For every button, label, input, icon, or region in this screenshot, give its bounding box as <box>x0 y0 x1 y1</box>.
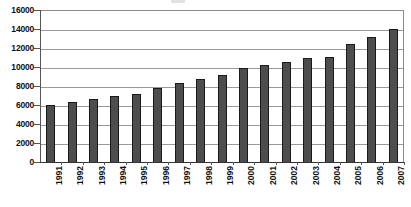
x-tick-label: 2007 <box>397 166 406 185</box>
bar <box>346 44 355 162</box>
y-tick-mark <box>34 67 40 68</box>
y-tick-mark <box>34 10 40 11</box>
x-tick-label: 2002 <box>290 166 299 185</box>
y-tick-mark <box>34 143 40 144</box>
y-tick-label: 10000 <box>11 63 34 72</box>
x-tick-mark <box>168 162 169 165</box>
x-tick-label: 1993 <box>98 166 107 185</box>
x-tick-label: 2006 <box>376 166 385 185</box>
x-tick-mark <box>383 162 384 165</box>
y-tick-mark <box>34 86 40 87</box>
x-tick-mark <box>340 162 341 165</box>
x-tick-mark <box>126 162 127 165</box>
x-tick-label: 1991 <box>55 166 64 185</box>
bar <box>239 68 248 162</box>
x-tick-label: 2005 <box>354 166 363 185</box>
y-tick-mark <box>34 124 40 125</box>
x-tick-mark <box>83 162 84 165</box>
bars-layer <box>40 10 404 162</box>
y-tick-label: 14000 <box>11 25 34 34</box>
x-tick-mark <box>254 162 255 165</box>
y-tick-label: 16000 <box>11 6 34 15</box>
x-tick-mark <box>297 162 298 165</box>
bar <box>196 79 205 162</box>
y-tick-mark <box>34 48 40 49</box>
y-tick-mark <box>34 105 40 106</box>
x-tick-mark <box>61 162 62 165</box>
x-tick-mark <box>211 162 212 165</box>
x-tick-label: 2004 <box>333 166 342 185</box>
bar <box>325 57 334 162</box>
y-tick-label: 2000 <box>16 139 34 148</box>
x-tick-label: 1992 <box>76 166 85 185</box>
bar <box>389 29 398 162</box>
bar <box>46 105 55 162</box>
bar-chart: 0200040006000800010000120001400016000 19… <box>0 0 411 207</box>
cropped-title-remnant <box>171 0 185 3</box>
bar <box>282 62 291 162</box>
x-tick-label: 1999 <box>226 166 235 185</box>
y-tick-label: 6000 <box>16 101 34 110</box>
bar <box>153 88 162 162</box>
bar <box>68 102 77 162</box>
x-tick-mark <box>190 162 191 165</box>
x-tick-label: 2000 <box>247 166 256 185</box>
y-axis: 0200040006000800010000120001400016000 <box>0 0 40 207</box>
y-tick-label: 12000 <box>11 44 34 53</box>
x-tick-mark <box>276 162 277 165</box>
bar <box>89 99 98 162</box>
x-tick-mark <box>361 162 362 165</box>
x-tick-mark <box>147 162 148 165</box>
x-tick-label: 1998 <box>205 166 214 185</box>
x-axis: 1991199219931994199519961997199819992000… <box>40 162 404 207</box>
bar <box>260 65 269 162</box>
x-tick-mark <box>404 162 405 165</box>
x-tick-mark <box>318 162 319 165</box>
y-tick-label: 4000 <box>16 120 34 129</box>
y-tick-mark <box>34 29 40 30</box>
bar <box>303 58 312 162</box>
bar <box>175 83 184 162</box>
y-tick-label: 8000 <box>16 82 34 91</box>
bar <box>132 94 141 162</box>
x-tick-label: 2001 <box>269 166 278 185</box>
x-tick-label: 1994 <box>119 166 128 185</box>
bar <box>110 96 119 163</box>
x-tick-mark <box>233 162 234 165</box>
x-tick-mark <box>104 162 105 165</box>
x-tick-label: 1995 <box>140 166 149 185</box>
x-tick-label: 2003 <box>312 166 321 185</box>
bar <box>367 37 376 162</box>
y-tick-mark <box>34 162 40 163</box>
x-tick-label: 1997 <box>183 166 192 185</box>
x-tick-label: 1996 <box>162 166 171 185</box>
bar <box>218 75 227 162</box>
